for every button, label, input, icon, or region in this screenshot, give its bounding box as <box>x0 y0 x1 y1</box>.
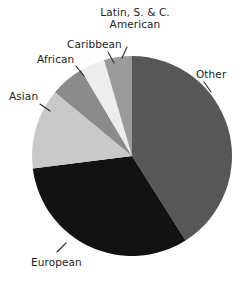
pie-label-other: Other <box>196 68 226 80</box>
pie-slices <box>32 56 232 256</box>
leader-line-european <box>57 243 66 252</box>
pie-label-african: African <box>37 53 74 65</box>
pie-label-asian: Asian <box>9 90 38 102</box>
pie-label-latin-s-c-american: Latin, S. & C. American <box>92 6 178 31</box>
pie-chart-canvas <box>0 0 247 283</box>
pie-label-caribbean: Caribbean <box>67 38 122 50</box>
pie-chart-figure: Latin, S. & C. American Caribbean Africa… <box>0 0 247 283</box>
pie-label-latin-line2: American <box>110 18 161 30</box>
pie-label-latin-line1: Latin, S. & C. <box>100 6 170 18</box>
pie-label-european: European <box>31 256 82 268</box>
